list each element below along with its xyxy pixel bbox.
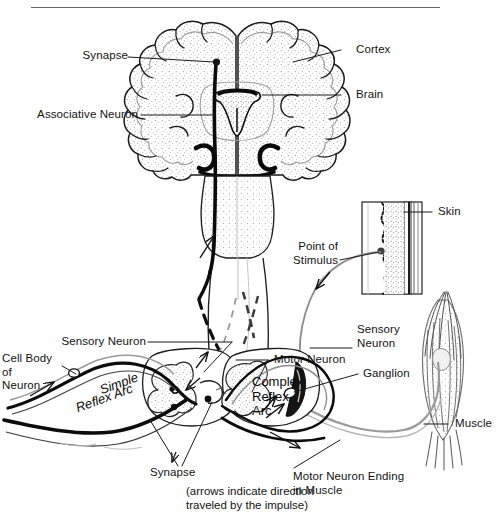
synapse-dot-right	[205, 396, 212, 403]
figure-caption: (arrows indicate direction traveled by t…	[186, 484, 314, 512]
label-ganglion: Ganglion	[363, 367, 410, 381]
label-sensory-neuron-right: Sensory Neuron	[357, 323, 400, 350]
label-skin: Skin	[438, 205, 461, 219]
skin-block	[362, 202, 422, 294]
label-synapse-top: Synapse	[66, 49, 128, 63]
label-complex-reflex-arc: Complex Reflex Arc	[252, 375, 303, 419]
impulse-arrow-sensory	[316, 272, 330, 289]
label-cortex: Cortex	[356, 43, 390, 57]
label-point-of-stimulus: Point of Stimulus	[272, 240, 338, 267]
brain-structure	[124, 21, 350, 386]
point-of-stimulus-dot	[377, 247, 384, 254]
label-associative-neuron: Associative Neuron	[28, 108, 138, 122]
label-synapse-bottom: Synapse	[150, 466, 195, 480]
muscle-structure	[423, 292, 464, 470]
label-sensory-neuron-left: Sensory Neuron	[46, 335, 146, 349]
reflex-arc-diagram	[0, 0, 502, 515]
label-brain: Brain	[356, 88, 383, 102]
label-muscle: Muscle	[455, 417, 492, 431]
label-cell-body-of-neuron: Cell Body of Neuron	[2, 352, 52, 393]
label-motor-neuron: Motor Neuron	[274, 353, 346, 367]
